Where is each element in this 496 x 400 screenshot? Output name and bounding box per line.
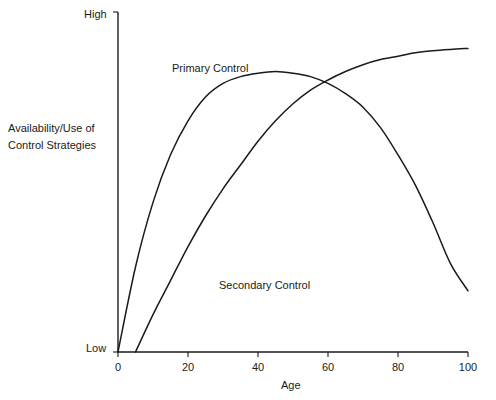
x-axis-title: Age bbox=[281, 378, 301, 393]
x-axis-tick-label-100: 100 bbox=[459, 360, 477, 375]
y-axis-title: Availability/Use of Control Strategies bbox=[8, 120, 108, 154]
x-axis-tick-label-20: 20 bbox=[182, 360, 194, 375]
primary-control-curve bbox=[118, 72, 468, 353]
secondary-control-label: Secondary Control bbox=[219, 278, 310, 293]
chart-plot-area bbox=[0, 0, 496, 400]
x-axis-tick-label-60: 60 bbox=[322, 360, 334, 375]
x-axis-tick-label-40: 40 bbox=[252, 360, 264, 375]
chart-figure: Availability/Use of Control Strategies H… bbox=[0, 0, 496, 400]
x-axis-tick-label-80: 80 bbox=[392, 360, 404, 375]
x-axis-tick-label-0: 0 bbox=[115, 360, 121, 375]
y-axis-high-label: High bbox=[84, 7, 107, 22]
x-axis-ticks bbox=[118, 352, 468, 357]
y-axis-low-label: Low bbox=[86, 341, 106, 356]
primary-control-label: Primary Control bbox=[172, 61, 248, 76]
secondary-control-curve bbox=[136, 48, 469, 352]
y-axis-ticks bbox=[113, 12, 118, 352]
